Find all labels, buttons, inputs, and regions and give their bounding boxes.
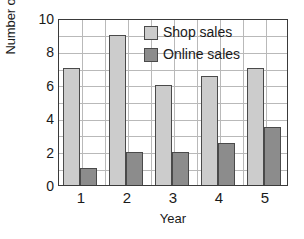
bar-online-sales-year-2 xyxy=(126,152,143,185)
y-axis-title-container: Number of sales (thousands) xyxy=(2,19,20,186)
y-axis-tick-labels: 0246810 xyxy=(28,0,54,239)
bar-online-sales-year-3 xyxy=(172,152,189,185)
y-axis-tick-label: 6 xyxy=(32,79,54,93)
bar-online-sales-year-4 xyxy=(218,143,235,185)
x-axis-title: Year xyxy=(58,212,288,226)
bar-shop-sales-year-3 xyxy=(155,85,172,185)
x-axis-tick-label: 3 xyxy=(158,190,188,206)
y-axis-tick-label: 8 xyxy=(32,45,54,59)
bar-shop-sales-year-1 xyxy=(63,68,80,185)
bar-online-sales-year-1 xyxy=(80,168,97,185)
y-axis-tick-label: 10 xyxy=(32,12,54,26)
bar-chart: Number of sales (thousands) 0246810 Shop… xyxy=(0,0,304,239)
x-axis-tick-label: 1 xyxy=(66,190,96,206)
x-axis-tick-label: 4 xyxy=(204,190,234,206)
bars-layer xyxy=(59,20,287,185)
y-axis-tick-label: 2 xyxy=(32,146,54,160)
plot-area: Shop salesOnline sales xyxy=(58,19,288,186)
bar-shop-sales-year-5 xyxy=(247,68,264,185)
bar-shop-sales-year-2 xyxy=(109,35,126,185)
y-axis-title: Number of sales (thousands) xyxy=(2,0,20,56)
y-axis-tick-label: 4 xyxy=(32,112,54,126)
x-axis-tick-label: 2 xyxy=(112,190,142,206)
bar-shop-sales-year-4 xyxy=(201,76,218,185)
bar-online-sales-year-5 xyxy=(264,127,281,185)
x-axis-tick-label: 5 xyxy=(250,190,280,206)
y-axis-tick-label: 0 xyxy=(32,179,54,193)
